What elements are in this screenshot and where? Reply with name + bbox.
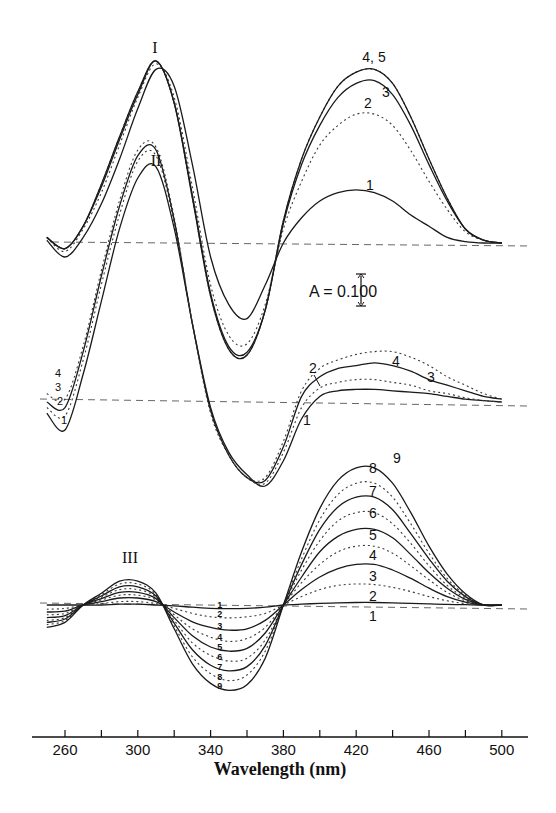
x-axis-ticks: 260300340380420460500 [52, 730, 514, 758]
curve-I-5 [47, 61, 502, 359]
curve-label-III-min-8: 8 [217, 672, 222, 682]
curve-label-III-5: 5 [369, 527, 377, 543]
curve-label-III-min-4: 4 [217, 632, 222, 642]
curve-label-III-7: 7 [369, 483, 377, 499]
x-tick-label-380: 380 [271, 741, 296, 758]
x-axis: 260300340380420460500 Wavelength (nm) [32, 730, 528, 780]
curve-II-4 [47, 141, 502, 482]
x-tick-label-420: 420 [344, 741, 369, 758]
panel-I-curves [47, 61, 502, 359]
curve-label-III-min-2: 2 [217, 609, 222, 619]
curve-III-6 [47, 511, 502, 661]
curve-label-III-min-3: 3 [217, 621, 222, 631]
curve-label-III-min-6: 6 [217, 652, 222, 662]
absorbance-scale-bar: A = 0.100 [309, 274, 377, 306]
curve-II-1 [47, 164, 502, 487]
curve-label-II-left-3: 3 [55, 381, 61, 393]
curve-II-2 [47, 150, 502, 485]
x-tick-label-460: 460 [416, 741, 441, 758]
curve-label-II-right-3: 3 [427, 369, 435, 385]
curve-I-1 [47, 68, 502, 319]
panel-III-curves [47, 466, 502, 690]
curve-label-III-6: 6 [369, 505, 377, 521]
baselines [40, 242, 532, 609]
curve-label-I-4-5: 4, 5 [362, 49, 386, 65]
curve-label-II-left-4: 4 [55, 367, 61, 379]
curve-label-II-left-2: 2 [57, 395, 63, 407]
curve-label-III-3: 3 [369, 568, 377, 584]
curve-label-I-3: 3 [382, 84, 390, 100]
curve-label-II-right-2: 2 [309, 360, 317, 376]
curve-label-III-8: 8 [369, 460, 377, 476]
curve-label-III-4: 4 [369, 547, 377, 563]
curve-label-I-2: 2 [364, 95, 372, 111]
curve-label-III-min-5: 5 [217, 642, 222, 652]
curve-label-I-1: 1 [366, 177, 374, 193]
x-tick-label-260: 260 [52, 741, 77, 758]
difference-spectra-chart: I II III 4, 5 3 2 1 A = 0.100 4 3 2 1 2 … [0, 0, 556, 813]
x-tick-label-500: 500 [489, 741, 514, 758]
curve-label-III-2: 2 [369, 588, 377, 604]
curve-label-II-left-1: 1 [61, 414, 67, 426]
curve-label-III-9: 9 [393, 450, 401, 466]
curve-I-4 [47, 61, 502, 359]
curve-II-3 [47, 145, 502, 483]
curve-label-II-right-4: 4 [392, 353, 400, 369]
baseline-panel-I [52, 242, 532, 246]
curve-III-1 [47, 602, 502, 608]
x-axis-title: Wavelength (nm) [214, 759, 347, 780]
curve-I-3 [47, 61, 502, 356]
x-tick-label-340: 340 [198, 741, 223, 758]
curve-III-8 [47, 482, 502, 681]
baseline-panel-II [40, 399, 528, 406]
curve-label-II-right-1: 1 [303, 412, 311, 428]
curve-I-2 [47, 64, 502, 346]
curve-label-III-min-7: 7 [217, 662, 222, 672]
panel-label-II: II [151, 152, 162, 169]
curve-label-III-1: 1 [369, 608, 377, 624]
curve-label-III-min-9: 9 [217, 681, 222, 691]
panel-III-minimum-labels: 123456789 [217, 600, 222, 692]
scale-bar-label: A = 0.100 [309, 283, 377, 300]
curve-III-9 [47, 466, 502, 690]
x-tick-label-300: 300 [125, 741, 150, 758]
panel-label-I: I [152, 39, 157, 56]
panel-label-III: III [122, 549, 138, 566]
panel-II-curves [47, 141, 502, 487]
